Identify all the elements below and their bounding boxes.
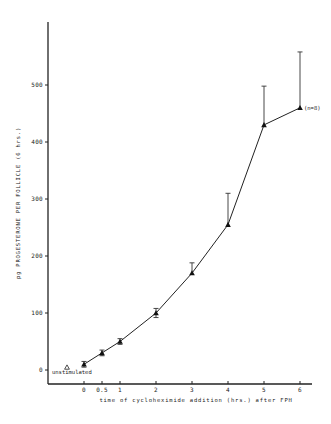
error-bars [82, 52, 303, 367]
y-tick-label: 500 [31, 81, 43, 88]
x-tick-label: 4 [226, 386, 230, 393]
filled-triangle-marker [99, 350, 105, 355]
y-tick-label: 100 [31, 309, 43, 316]
y-tick-label: 200 [31, 252, 43, 259]
x-tick-label: 2 [154, 386, 158, 393]
x-tick-label: 3 [190, 386, 194, 393]
y-axis-title: pg PROGESTERONE PER FOLLICLE (6 hrs.) [15, 127, 22, 279]
annotations: (n=8) [304, 105, 321, 111]
x-axis-title: time of cycloheximide addition (hrs.) af… [99, 397, 292, 404]
data-markers [81, 105, 303, 367]
unstimulated-label: unstimulated [52, 369, 92, 375]
y-axis: 0100200300400500 [31, 22, 48, 384]
filled-triangle-marker [261, 122, 267, 127]
n-annotation: (n=8) [304, 105, 321, 111]
y-tick-label: 0 [39, 366, 43, 373]
x-tick-label: 0.5 [96, 386, 108, 393]
filled-triangle-marker [297, 105, 303, 110]
chart: 0100200300400500 00.5123456 pg PROGESTER… [0, 0, 331, 424]
y-tick-label: 300 [31, 195, 43, 202]
x-tick-label: 0 [82, 386, 86, 393]
filled-triangle-marker [81, 362, 87, 367]
x-tick-label: 6 [298, 386, 302, 393]
x-tick-label: 5 [262, 386, 266, 393]
x-tick-label: 1 [118, 386, 122, 393]
filled-triangle-marker [225, 222, 231, 227]
data-line [84, 108, 300, 365]
x-axis: 00.5123456 [48, 381, 312, 393]
y-tick-label: 400 [31, 138, 43, 145]
